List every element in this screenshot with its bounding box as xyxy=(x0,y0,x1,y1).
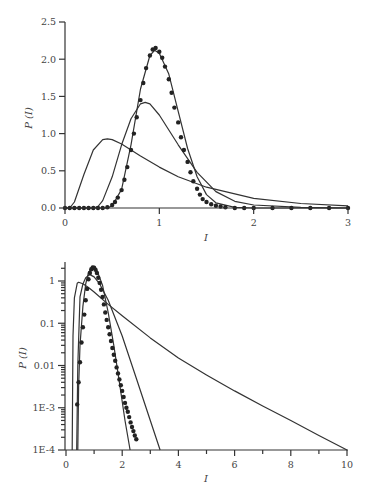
y-tick-label: 0.5 xyxy=(41,165,56,176)
series-curve-medium xyxy=(65,102,348,208)
y-tick-label: 1.0 xyxy=(41,128,56,139)
data-point xyxy=(204,200,208,204)
data-point xyxy=(129,148,133,152)
data-point xyxy=(201,197,205,201)
bottom-chart-log: 1E-41E-30.010.11 0246810 P (I) I xyxy=(17,262,353,484)
data-point xyxy=(100,295,104,299)
data-point xyxy=(125,165,129,169)
data-point xyxy=(134,437,138,441)
y-tick-label: 2.0 xyxy=(41,54,56,65)
y-tick-label: 0.01 xyxy=(34,360,55,371)
data-point xyxy=(148,53,152,57)
data-point xyxy=(167,77,171,81)
data-point xyxy=(131,429,135,433)
data-point xyxy=(105,205,109,209)
data-point xyxy=(88,271,92,275)
top-x-ticks: 0123 xyxy=(62,208,351,228)
data-point xyxy=(127,415,131,419)
x-tick-label: 0 xyxy=(63,459,69,470)
x-tick-label: 8 xyxy=(288,459,294,470)
data-point xyxy=(102,302,106,306)
x-tick-label: 6 xyxy=(232,459,238,470)
data-point xyxy=(82,312,86,316)
x-tick-label: 2 xyxy=(119,459,125,470)
data-point xyxy=(107,332,111,336)
series-curve-broad xyxy=(72,282,347,450)
data-point xyxy=(209,202,213,206)
y-tick-label: 2.5 xyxy=(41,16,56,27)
data-point xyxy=(86,277,90,281)
data-point xyxy=(106,325,110,329)
data-point xyxy=(110,346,114,350)
data-point xyxy=(130,425,134,429)
y-tick-label: 0.1 xyxy=(40,318,55,329)
bottom-chart-curves xyxy=(72,267,347,450)
data-point xyxy=(128,420,132,424)
data-point xyxy=(138,98,142,102)
data-point xyxy=(113,200,117,204)
series-curve-narrow xyxy=(65,50,348,208)
data-point xyxy=(214,204,218,208)
data-point xyxy=(176,120,180,124)
y-tick-label: 1E-4 xyxy=(33,444,55,455)
series-curve-narrow xyxy=(78,267,130,450)
top-chart-linear: 0.00.51.01.52.02.5 0123 P (I) I xyxy=(23,16,351,243)
data-point xyxy=(121,395,125,399)
data-point xyxy=(172,105,176,109)
data-point xyxy=(112,353,116,357)
data-point xyxy=(116,371,120,375)
data-point xyxy=(119,188,123,192)
data-point xyxy=(109,339,113,343)
data-point xyxy=(132,131,136,135)
data-point xyxy=(124,406,128,410)
data-point xyxy=(117,377,121,381)
data-point xyxy=(96,276,100,280)
data-point xyxy=(78,360,82,364)
top-y-axis-title: P (I) xyxy=(23,107,34,130)
y-tick-label: 0.0 xyxy=(41,202,56,213)
data-point xyxy=(84,298,88,302)
top-x-axis-title: I xyxy=(203,232,209,243)
data-point xyxy=(198,192,202,196)
data-point xyxy=(123,401,127,405)
series-curve-broad xyxy=(65,139,348,208)
data-point xyxy=(95,271,99,275)
data-point xyxy=(85,287,89,291)
data-point xyxy=(98,281,102,285)
data-point xyxy=(113,359,117,363)
y-tick-label: 1E-3 xyxy=(33,402,55,413)
data-point xyxy=(179,135,183,139)
data-point xyxy=(157,50,161,54)
data-point xyxy=(188,170,192,174)
data-point xyxy=(126,410,130,414)
data-point xyxy=(169,91,173,95)
data-point xyxy=(191,179,195,183)
top-y-ticks: 0.00.51.01.52.02.5 xyxy=(41,16,65,213)
x-tick-label: 4 xyxy=(175,459,181,470)
data-point xyxy=(153,46,157,50)
data-point xyxy=(103,310,107,314)
bottom-y-ticks: 1E-41E-30.010.11 xyxy=(33,268,65,455)
x-tick-label: 2 xyxy=(251,217,257,228)
top-chart-data-points xyxy=(63,46,350,210)
data-point xyxy=(223,205,227,209)
data-point xyxy=(120,389,124,393)
data-point xyxy=(144,66,148,70)
y-tick-label: 1.5 xyxy=(41,91,56,102)
data-point xyxy=(116,195,120,199)
data-point xyxy=(114,365,118,369)
bottom-x-axis-title: I xyxy=(203,473,209,484)
bottom-y-axis-title: P (I) xyxy=(17,347,28,370)
data-point xyxy=(76,380,80,384)
data-point xyxy=(99,288,103,292)
data-point xyxy=(185,160,189,164)
series-curve-medium xyxy=(77,275,160,450)
data-point xyxy=(122,178,126,182)
data-point xyxy=(182,148,186,152)
top-chart-curves xyxy=(65,50,348,208)
data-point xyxy=(79,340,83,344)
data-point xyxy=(75,402,79,406)
x-tick-label: 0 xyxy=(62,217,68,228)
y-tick-label: 1 xyxy=(49,275,55,286)
bottom-x-ticks: 0246810 xyxy=(63,450,353,470)
